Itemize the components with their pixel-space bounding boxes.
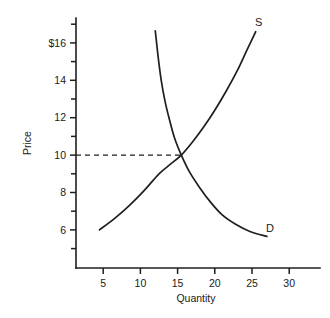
supply-demand-chart: $16 14 12 10 8 6 5 10 15 20 25 30 Quanti… xyxy=(0,0,330,318)
x-tick-label-10: 10 xyxy=(135,277,147,289)
axes-group xyxy=(76,18,320,268)
demand-curve xyxy=(155,31,267,237)
y-tick-label-6: 6 xyxy=(60,224,66,236)
x-tick-label-15: 15 xyxy=(172,277,184,289)
supply-curve-label: S xyxy=(255,16,262,28)
x-tick-label-5: 5 xyxy=(100,277,106,289)
x-tick-label-20: 20 xyxy=(209,277,221,289)
x-axis-major-ticks xyxy=(103,268,289,274)
y-tick-labels: $16 14 12 10 8 6 xyxy=(48,37,66,236)
y-tick-label-12: 12 xyxy=(54,111,66,123)
y-tick-label-10: 10 xyxy=(54,149,66,161)
x-tick-label-30: 30 xyxy=(283,277,295,289)
y-axis-title: Price xyxy=(21,131,33,155)
x-tick-label-25: 25 xyxy=(246,277,258,289)
x-axis-title: Quantity xyxy=(176,292,216,304)
x-tick-labels: 5 10 15 20 25 30 xyxy=(100,277,295,289)
y-tick-label-14: 14 xyxy=(54,74,66,86)
chart-canvas: $16 14 12 10 8 6 5 10 15 20 25 30 Quanti… xyxy=(0,0,330,318)
y-tick-label-8: 8 xyxy=(60,186,66,198)
demand-curve-label: D xyxy=(266,222,274,234)
y-tick-label-16: $16 xyxy=(48,37,66,49)
supply-curve xyxy=(99,32,255,230)
